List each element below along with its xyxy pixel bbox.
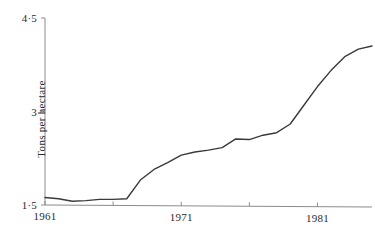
data-line-yield bbox=[45, 46, 372, 201]
y-axis-tick-label: 1·5 bbox=[0, 199, 37, 211]
x-axis-tick-label: 1981 bbox=[306, 212, 329, 224]
line-chart: Tons per hectare 4·531·5 196119711981 bbox=[0, 0, 375, 238]
chart-plot-area bbox=[0, 0, 375, 238]
y-axis-tick-label: 4·5 bbox=[0, 12, 37, 24]
x-axis-line bbox=[45, 205, 372, 207]
y-axis-tick-label: 3 bbox=[0, 106, 37, 118]
chart-axes bbox=[45, 18, 372, 207]
x-axis-ticks bbox=[45, 201, 318, 207]
y-axis-title: Tons per hectare bbox=[35, 80, 47, 157]
x-axis-tick-label: 1971 bbox=[170, 211, 193, 223]
x-axis-tick-label: 1961 bbox=[34, 210, 57, 222]
data-series-group bbox=[45, 46, 372, 201]
